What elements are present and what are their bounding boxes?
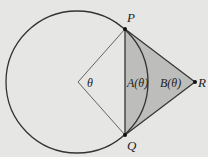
label-p: P: [126, 10, 135, 25]
point-q: [123, 133, 127, 137]
label-r: R: [197, 75, 206, 90]
point-r: [193, 80, 197, 84]
radius-to-q: [78, 82, 125, 135]
label-a-theta: A(θ): [126, 76, 148, 90]
radius-to-p: [78, 29, 125, 82]
point-p: [123, 27, 127, 31]
circle-tangent-diagram: P Q R θ A(θ) B(θ): [0, 0, 208, 157]
label-b-theta: B(θ): [160, 76, 181, 90]
label-theta: θ: [87, 76, 93, 90]
label-q: Q: [127, 138, 137, 153]
